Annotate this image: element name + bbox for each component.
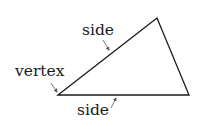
triangle-diagram: side vertex side	[0, 0, 197, 129]
label-side-bottom: side	[77, 101, 109, 119]
label-vertex: vertex	[14, 62, 65, 80]
arrow-side-bottom-icon	[111, 98, 116, 108]
arrow-side-top-icon	[103, 40, 109, 50]
arrow-vertex-icon	[51, 83, 57, 92]
triangle-shape	[58, 18, 189, 95]
label-side-top: side	[82, 21, 114, 39]
